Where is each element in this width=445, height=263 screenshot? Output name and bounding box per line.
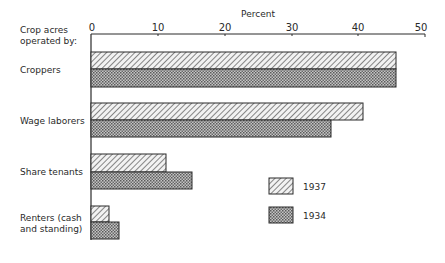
legend-label-1934: 1934 bbox=[303, 211, 326, 221]
x-tick-label: 20 bbox=[219, 22, 232, 33]
x-tick-label: 10 bbox=[152, 22, 165, 33]
bar-share-tenants-1937 bbox=[91, 154, 166, 172]
bar-wage-laborers-1934 bbox=[91, 120, 331, 137]
x-tick-label: 40 bbox=[352, 22, 365, 33]
x-tick-label: 30 bbox=[286, 22, 299, 33]
legend-swatch-1934 bbox=[269, 207, 293, 223]
legend-label-1937: 1937 bbox=[303, 182, 326, 192]
x-tick-label: 50 bbox=[415, 22, 428, 33]
legend-swatch-1937 bbox=[269, 178, 293, 194]
x-axis-title: Percent bbox=[241, 9, 275, 19]
x-tick-labels: 0 10 20 30 40 50 bbox=[89, 22, 428, 33]
chart-canvas: Percent 0 10 20 30 40 50 Crop acres oper… bbox=[0, 0, 445, 263]
y-group-header-line1: Crop acres bbox=[20, 25, 68, 35]
bar-wage-laborers-1937 bbox=[91, 103, 363, 120]
bar-share-tenants-1934 bbox=[91, 172, 192, 189]
category-label-wage-laborers: Wage laborers bbox=[20, 116, 85, 126]
category-label-share-tenants: Share tenants bbox=[20, 167, 83, 177]
x-tick-label: 0 bbox=[89, 22, 95, 33]
bar-croppers-1937 bbox=[91, 52, 396, 69]
category-label-renters-line1: Renters (cash bbox=[20, 213, 82, 223]
bar-renters-1934 bbox=[91, 222, 119, 239]
category-label-renters-line2: and standing) bbox=[20, 224, 82, 234]
bar-renters-1937 bbox=[91, 206, 109, 222]
legend: 1937 1934 bbox=[269, 178, 326, 223]
category-label-croppers: Croppers bbox=[20, 65, 61, 75]
bar-croppers-1934 bbox=[91, 69, 396, 87]
y-group-header-line2: operated by: bbox=[20, 36, 77, 46]
